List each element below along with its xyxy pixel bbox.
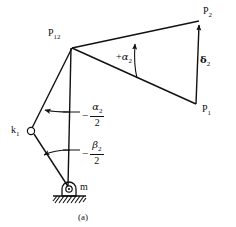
m-pivot-center-dot <box>68 188 70 190</box>
label-alpha2-half-numerator: α2 <box>90 102 104 116</box>
label-k1: k1 <box>11 125 20 138</box>
label-p12-sub: 12 <box>54 33 61 41</box>
label-delta2-sub: 2 <box>207 60 211 68</box>
link-k1-to-m <box>34 134 69 188</box>
diagram-canvas <box>0 0 236 227</box>
edge-p12-to-p1 <box>72 48 196 104</box>
label-alpha2-rotation-sub: 2 <box>128 57 132 65</box>
label-m-base: m <box>80 181 88 192</box>
delta2-vector <box>196 25 199 104</box>
label-alpha2-half-sub: 2 <box>99 107 103 115</box>
link-p12-to-m <box>68 48 71 186</box>
label-p2: P2 <box>203 6 212 19</box>
label-beta2-half-denominator: 2 <box>92 155 101 166</box>
label-p2-sub: 2 <box>209 11 213 19</box>
kinematics-figure: P12 P2 P1 k1 m δ2 +α2 − α2 2 − β2 2 (a) <box>0 0 236 227</box>
label-alpha2-half-denominator: 2 <box>93 117 102 128</box>
label-alpha2-half: − α2 2 <box>82 102 104 128</box>
label-delta2: δ2 <box>200 55 210 68</box>
label-k1-sub: 1 <box>16 130 20 138</box>
label-p12: P12 <box>48 28 61 41</box>
label-alpha2-half-base: α <box>92 101 99 112</box>
label-beta2-half: − β2 2 <box>82 140 104 166</box>
label-alpha2-half-sign: − <box>82 109 88 121</box>
label-m: m <box>80 182 88 192</box>
label-beta2-half-numerator: β2 <box>90 140 103 154</box>
k1-pivot-joint <box>27 127 34 134</box>
label-alpha2-rotation: +α2 <box>116 52 132 65</box>
figure-caption: (a) <box>78 212 88 222</box>
label-beta2-half-sign: − <box>82 147 88 159</box>
label-alpha2-half-fraction: α2 2 <box>90 102 104 128</box>
alpha2-rotation-leader <box>134 44 137 78</box>
label-p1: P1 <box>202 104 211 117</box>
link-p12-to-k1 <box>32 48 72 128</box>
label-delta2-base: δ <box>200 54 207 65</box>
label-beta2-half-sub: 2 <box>98 145 102 153</box>
label-beta2-half-fraction: β2 2 <box>90 140 103 166</box>
label-p1-sub: 1 <box>208 109 212 117</box>
edge-p12-to-p2 <box>72 21 199 48</box>
ground-hatching <box>53 196 86 203</box>
